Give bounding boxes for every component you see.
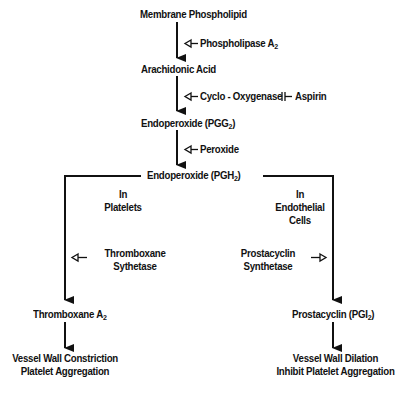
location-endothelial: InEndothelialCells — [274, 188, 327, 227]
node-arachidonic-acid: Arachidonic Acid — [141, 63, 216, 76]
node-prostacyclin: Prostacyclin (PGI2) — [292, 308, 374, 321]
inhibitor-aspirin: Aspirin — [295, 90, 327, 103]
enzyme-cyclooxygenase: Cyclo - Oxygenase — [200, 90, 282, 103]
node-pgg2: Endoperoxide (PGG2) — [141, 117, 235, 130]
location-platelets: InPlatelets — [101, 188, 145, 214]
pathway-connectors — [0, 0, 411, 395]
node-membrane-phospholipid: Membrane Phospholipid — [140, 8, 247, 21]
node-thromboxane-a2: Thromboxane A2 — [33, 308, 107, 321]
enzyme-thromboxane-synthetase: ThromboxaneSythetase — [100, 247, 170, 273]
node-pgh2: Endoperoxide (PGH2) — [147, 169, 241, 182]
effect-right: Vessel Wall DilationInhibit Platelet Agg… — [276, 352, 395, 378]
enzyme-prostacyclin-synthetase: ProstacyclinSynthetase — [233, 247, 303, 273]
enzyme-peroxide: Peroxide — [200, 143, 239, 156]
enzyme-phospholipase: Phospholipase A2 — [200, 37, 278, 50]
effect-left: Vessel Wall ConstrictionPlatelet Aggrega… — [12, 352, 118, 378]
